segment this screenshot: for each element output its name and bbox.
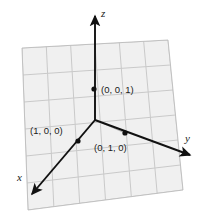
point-001-marker [91, 86, 96, 91]
point-label-001: (0, 0, 1) [101, 84, 134, 95]
axis-label-z: z [100, 7, 106, 19]
coordinate-axes-figure: z x y (0, 0, 1) (1, 0, 0) (0, 1, 0) [0, 0, 209, 221]
axis-label-y: y [184, 132, 190, 144]
axis-label-x: x [16, 171, 22, 183]
point-100-marker [75, 138, 80, 143]
point-label-010: (0, 1, 0) [94, 142, 127, 153]
figure-canvas: z x y (0, 0, 1) (1, 0, 0) (0, 1, 0) [0, 0, 209, 221]
point-label-100: (1, 0, 0) [30, 125, 63, 136]
point-010-marker [122, 130, 127, 135]
